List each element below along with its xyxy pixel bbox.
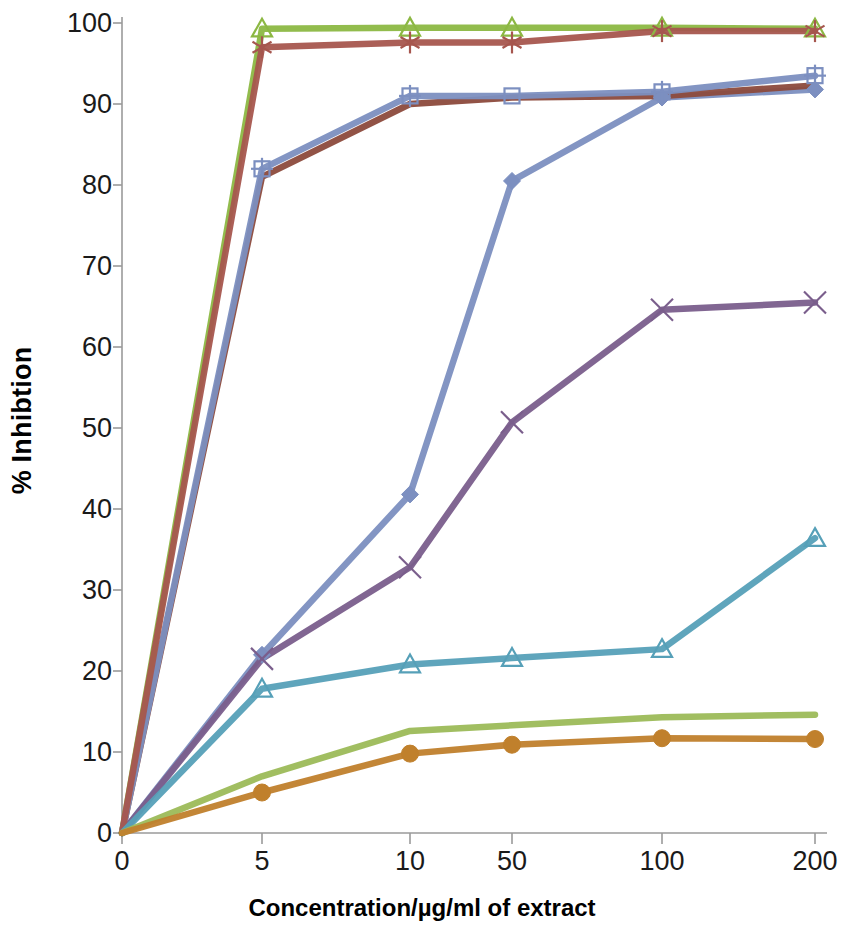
x-axis-tick-labels: 051050100200 (0, 846, 844, 890)
data-point-marker (504, 736, 521, 753)
data-point-marker (402, 745, 419, 762)
series-6 (122, 31, 815, 833)
series-8 (122, 715, 815, 833)
y-tick-label: 100 (40, 8, 112, 39)
x-tick-label: 0 (62, 846, 182, 877)
x-tick-label: 200 (755, 846, 844, 877)
y-tick-label: 70 (40, 251, 112, 282)
series-3 (122, 28, 815, 833)
x-tick-label: 5 (202, 846, 322, 877)
series-5 (122, 302, 815, 833)
y-tick-label: 20 (40, 656, 112, 687)
y-tick-label: 10 (40, 737, 112, 768)
y-axis-title-text: % Inhibtion (8, 346, 39, 494)
series-9 (122, 738, 815, 833)
axes-group (113, 17, 827, 844)
data-point-marker (254, 784, 271, 801)
y-tick-label: 80 (40, 170, 112, 201)
y-tick-label: 90 (40, 89, 112, 120)
x-tick-label: 50 (452, 846, 572, 877)
x-tick-label: 100 (602, 846, 722, 877)
plot-area (118, 10, 828, 846)
y-axis-tick-labels: 0102030405060708090100 (40, 0, 112, 840)
data-point-marker (654, 730, 671, 747)
series-line (122, 302, 815, 833)
chart-container: % Inhibtion 0102030405060708090100 05105… (0, 0, 844, 936)
y-tick-label: 50 (40, 413, 112, 444)
y-tick-label: 60 (40, 332, 112, 363)
plot-svg (118, 10, 828, 846)
series-2 (122, 85, 815, 833)
y-tick-label: 30 (40, 575, 112, 606)
series-line (122, 31, 815, 833)
series-line (122, 85, 815, 833)
series-line (122, 738, 815, 833)
y-tick-label: 40 (40, 494, 112, 525)
series-line (122, 715, 815, 833)
y-tick-label: 0 (40, 818, 112, 849)
data-point-marker (807, 731, 824, 748)
x-axis-title: Concentration/µg/ml of extract (0, 894, 844, 922)
series-line (122, 28, 815, 833)
